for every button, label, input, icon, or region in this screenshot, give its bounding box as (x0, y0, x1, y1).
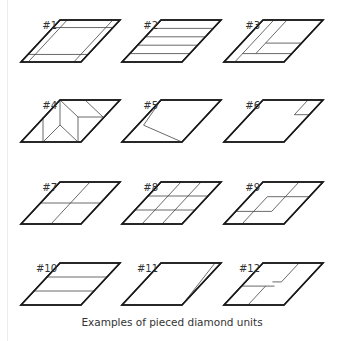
diamond-unit-1: #1 (21, 20, 120, 62)
diamond-unit-12: #12 (224, 263, 323, 305)
diamond-units-diagram: #1#2#3#4#5#6#7#8#9#10#11#12 (0, 0, 344, 341)
unit-label: #8 (143, 182, 158, 193)
unit-label: #10 (36, 263, 57, 274)
unit-label: #1 (42, 20, 57, 31)
unit-label: #2 (143, 20, 158, 31)
unit-label: #9 (245, 182, 260, 193)
diamond-outline (21, 100, 120, 142)
diamond-outline (122, 100, 221, 142)
diamond-unit-11: #11 (122, 263, 221, 305)
diamond-unit-9: #9 (224, 182, 323, 224)
diamond-unit-6: #6 (224, 100, 323, 142)
diamond-unit-2: #2 (122, 20, 221, 62)
unit-label: #12 (239, 263, 260, 274)
diamond-unit-5: #5 (122, 100, 221, 142)
unit-label: #6 (245, 100, 260, 111)
diamond-outline (224, 100, 323, 142)
unit-label: #5 (143, 100, 158, 111)
figure-caption: Examples of pieced diamond units (0, 316, 344, 328)
diamond-outline (21, 20, 120, 62)
diamond-outline (224, 20, 323, 62)
unit-label: #3 (245, 20, 260, 31)
diamond-unit-10: #10 (21, 263, 120, 305)
diamond-unit-7: #7 (21, 182, 120, 224)
diamond-outline (224, 182, 323, 224)
diamond-outline (122, 182, 221, 224)
unit-label: #4 (42, 100, 57, 111)
diamond-unit-8: #8 (122, 182, 221, 224)
unit-label: #7 (42, 182, 57, 193)
diamond-unit-4: #4 (21, 100, 120, 142)
diamond-outline (122, 20, 221, 62)
unit-label: #11 (137, 263, 158, 274)
diamond-unit-3: #3 (224, 20, 323, 62)
